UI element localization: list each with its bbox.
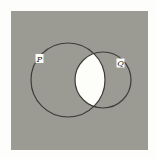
svg-text:P: P <box>36 55 43 64</box>
set-p-label: P <box>36 54 44 64</box>
venn-diagram: P Q <box>0 0 156 159</box>
set-q-label: Q <box>117 59 125 69</box>
svg-text:Q: Q <box>117 59 124 68</box>
